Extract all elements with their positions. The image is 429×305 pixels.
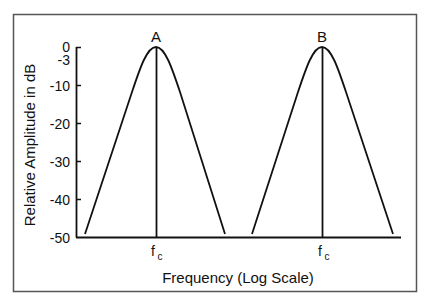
chart-canvas: 0 -3 -10 -20 -30 -40 -50 Relative Amplit…: [0, 0, 429, 305]
y-tick-minus-10: -10: [50, 78, 70, 94]
x-tick-fc-a: f c: [151, 243, 162, 262]
fc-a-main: f: [151, 243, 155, 259]
y-tick-minus-50: -50: [50, 230, 70, 246]
y-tick-minus-20: -20: [50, 116, 70, 132]
curve-b-label: B: [317, 28, 327, 45]
curve-a-label: A: [151, 28, 161, 45]
curve-a: [85, 47, 225, 234]
x-tick-fc-b: f c: [318, 243, 329, 262]
fc-a-sub: c: [158, 251, 163, 262]
fc-b-sub: c: [325, 251, 330, 262]
y-tick-minus-3: -3: [58, 52, 71, 68]
y-axis-label: Relative Amplitude in dB: [21, 64, 38, 227]
fc-b-main: f: [318, 243, 322, 259]
y-tick-minus-30: -30: [50, 154, 70, 170]
chart-frame: [14, 15, 417, 292]
y-tick-minus-40: -40: [50, 192, 70, 208]
x-axis-label: Frequency (Log Scale): [162, 269, 314, 286]
